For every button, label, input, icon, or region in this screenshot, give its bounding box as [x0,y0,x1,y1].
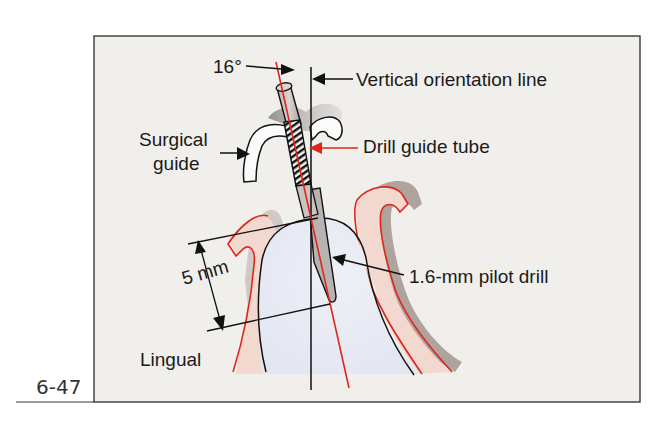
lingual-label: Lingual [140,349,201,370]
surgical-guide-label-line1: Surgical [139,129,208,150]
vertical-orientation-line-label: Vertical orientation line [356,69,547,90]
implant-drill-guide-figure: 6-47 [0,0,664,430]
pilot-drill-label: 1.6-mm pilot drill [409,266,548,287]
drill-guide-tube-label: Drill guide tube [363,136,490,157]
surgical-guide-label-line2: guide [153,153,200,174]
angle-label: 16° [213,56,242,77]
figure-number: 6-47 [36,375,81,399]
